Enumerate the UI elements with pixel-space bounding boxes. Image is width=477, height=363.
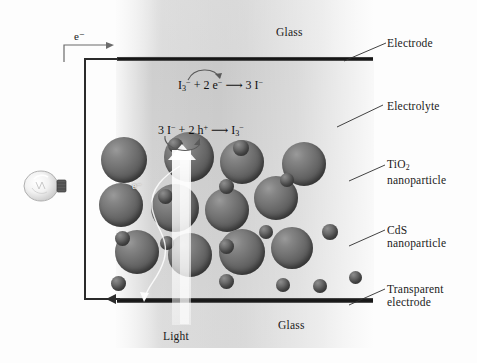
- cds-nanoparticle: [233, 140, 249, 156]
- eq-top-product: 3 I−: [246, 78, 264, 92]
- tio2-nanoparticle: [271, 227, 313, 269]
- cds-nanoparticle: [280, 173, 294, 187]
- light-label: Light: [163, 330, 189, 343]
- leader-line-electrolyte: [337, 104, 385, 128]
- glass-layer-bottom: [116, 302, 374, 348]
- current-direction-arrow-bottom: [104, 292, 126, 306]
- eq-top-reactant: I3−: [178, 78, 191, 92]
- callout-tio2-line2: nanoparticle: [387, 174, 446, 186]
- electron-label-in-film: e⁻: [132, 180, 142, 191]
- equation-oxidation: 3 I− + 2 h+ ⟶ I3−: [158, 123, 244, 138]
- glass-top-label: Glass: [276, 26, 303, 39]
- light-bulb: [22, 166, 68, 206]
- callout-tio2-line1: TiO: [387, 158, 406, 170]
- callout-cds-line2: nanoparticle: [387, 237, 446, 249]
- cds-nanoparticle: [219, 274, 234, 289]
- wire-left-upper: [84, 58, 86, 186]
- callout-tio2-sub: 2: [406, 163, 410, 172]
- cds-nanoparticle: [349, 271, 362, 284]
- callout-transparent-line2: electrode: [387, 296, 431, 308]
- equation-reduction: I3− + 2 e− ⟶ 3 I−: [178, 78, 263, 93]
- electron-flow-label: e⁻: [74, 30, 85, 43]
- leader-line-tio2: [349, 164, 387, 182]
- leader-line-electrode: [344, 42, 388, 62]
- eq-bottom-arrow: ⟶: [208, 123, 231, 137]
- callout-cds: CdS nanoparticle: [387, 224, 446, 249]
- eq-top-plus: +: [191, 78, 204, 92]
- callout-transparent-line1: Transparent: [387, 283, 444, 295]
- eq-bottom-holes: 2 h+: [188, 123, 208, 137]
- callout-electrode: Electrode: [387, 37, 433, 50]
- leader-line-transparent-electrode: [349, 288, 387, 306]
- tio2-nanoparticle: [205, 188, 249, 232]
- eq-bottom-product: I3−: [231, 123, 244, 137]
- cds-nanoparticle: [276, 278, 290, 292]
- eq-top-arrow: ⟶: [222, 78, 245, 92]
- cds-nanoparticle: [322, 224, 338, 240]
- callout-cds-line1: CdS: [387, 224, 407, 236]
- cds-nanoparticle: [219, 179, 234, 194]
- counter-electrode-bar: [117, 57, 373, 61]
- cds-nanoparticle: [219, 239, 234, 254]
- eq-top-electrons: 2 e−: [203, 78, 222, 92]
- callout-transparent-electrode: Transparent electrode: [387, 283, 444, 308]
- wire-left-lower: [84, 186, 86, 300]
- glass-layer-top: [116, 0, 374, 56]
- callout-electrolyte: Electrolyte: [387, 100, 440, 113]
- callout-tio2: TiO2 nanoparticle: [387, 158, 446, 187]
- electron-flow-arrow: [62, 42, 118, 64]
- cds-nanoparticle: [313, 279, 327, 293]
- figure-root: Glass Glass I3− + 2 e− ⟶ 3 I− 3 I− + 2 h…: [0, 0, 477, 363]
- glass-bottom-label: Glass: [278, 319, 305, 332]
- eq-bottom-reactant: 3 I−: [158, 123, 176, 137]
- cds-nanoparticle: [259, 225, 273, 239]
- leader-line-cds: [349, 229, 387, 247]
- eq-bottom-plus: +: [176, 123, 189, 137]
